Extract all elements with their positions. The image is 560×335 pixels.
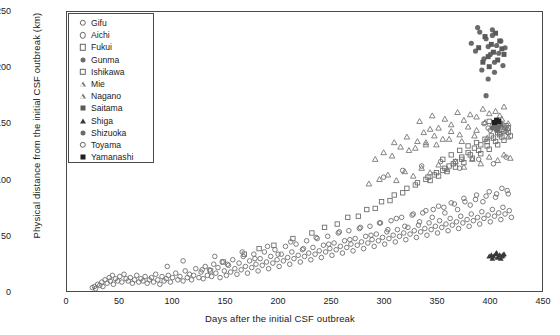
data-point: [342, 238, 347, 243]
data-point: [292, 256, 297, 261]
legend-item-label: Gifu: [91, 18, 107, 28]
data-point: [359, 240, 364, 245]
legend-item-gunma[interactable]: Gunma: [77, 54, 153, 66]
data-point: [417, 118, 423, 123]
data-point: [356, 214, 360, 218]
data-point: [276, 252, 281, 257]
data-point: [254, 262, 259, 267]
data-point: [262, 250, 267, 255]
data-point: [212, 254, 217, 259]
data-point: [492, 214, 497, 219]
data-point: [495, 58, 500, 63]
data-point: [442, 205, 447, 210]
data-point: [376, 238, 381, 243]
data-point: [355, 243, 360, 248]
data-point: [220, 260, 225, 265]
legend-item-yamanashi[interactable]: Yamanashi: [77, 151, 153, 163]
data-point: [201, 276, 206, 281]
legend-item-nagano[interactable]: Nagano: [77, 90, 153, 102]
data-point: [468, 203, 473, 208]
data-point: [314, 235, 319, 240]
data-point: [487, 119, 491, 123]
data-point: [145, 281, 150, 286]
data-point: [317, 249, 322, 254]
legend-item-shizuoka[interactable]: Shizuoka: [77, 127, 153, 139]
legend-item-gifu[interactable]: Gifu: [77, 17, 153, 29]
legend-item-shiga[interactable]: Shiga: [77, 115, 153, 127]
data-point: [277, 264, 282, 269]
data-point: [490, 207, 495, 212]
legend-item-label: Saitama: [91, 103, 123, 113]
data-point: [474, 140, 478, 144]
data-point: [370, 237, 375, 242]
data-point: [330, 253, 335, 258]
data-point: [496, 211, 501, 216]
data-point: [405, 186, 409, 190]
data-point: [473, 197, 478, 202]
data-point: [467, 224, 472, 229]
data-point: [235, 272, 240, 277]
data-point: [130, 281, 135, 286]
data-point: [488, 220, 493, 225]
legend-item-mie[interactable]: Mie: [77, 78, 153, 90]
data-point: [222, 269, 227, 274]
data-point: [347, 228, 352, 233]
data-point: [472, 133, 478, 138]
data-point: [328, 246, 333, 251]
data-point: [181, 259, 186, 264]
data-point: [474, 127, 480, 132]
data-point: [243, 264, 248, 269]
data-point: [348, 237, 353, 242]
x-axis-title: Days after the initial CSF outbreak: [0, 313, 560, 324]
data-point: [218, 275, 223, 280]
x-tick-label: 350: [414, 296, 460, 306]
data-point: [486, 111, 492, 116]
data-point: [363, 234, 368, 239]
data-point: [439, 225, 444, 230]
data-point: [475, 25, 480, 30]
legend-item-label: Shiga: [91, 116, 113, 126]
data-point: [168, 280, 173, 285]
data-point: [469, 212, 474, 217]
legend-item-label: Nagano: [91, 91, 121, 101]
data-point: [477, 30, 482, 35]
data-point: [496, 119, 501, 124]
data-point: [456, 226, 461, 231]
legend-item-aichi[interactable]: Aichi: [77, 29, 153, 41]
data-point: [271, 261, 276, 266]
data-point: [379, 200, 383, 204]
data-point: [372, 244, 377, 249]
legend-item-toyama[interactable]: Toyama: [77, 139, 153, 151]
data-point: [509, 215, 514, 220]
data-point: [397, 234, 402, 239]
x-tick-label: 250: [308, 296, 354, 306]
legend-item-saitama[interactable]: Saitama: [77, 102, 153, 114]
data-point: [230, 257, 235, 262]
data-point: [365, 207, 369, 211]
data-point: [170, 275, 175, 280]
x-tick-label: 300: [361, 296, 407, 306]
data-point: [500, 63, 505, 68]
data-point: [404, 237, 409, 242]
data-point: [334, 247, 339, 252]
data-point: [233, 266, 238, 271]
data-point: [313, 252, 318, 257]
data-point: [398, 144, 404, 149]
data-point: [457, 132, 463, 137]
data-point: [298, 260, 303, 265]
data-point: [448, 216, 453, 221]
data-point: [207, 268, 212, 273]
legend-item-fukui[interactable]: Fukui: [77, 41, 153, 53]
legend-item-ishikawa[interactable]: Ishikawa: [77, 66, 153, 78]
data-point: [411, 212, 416, 217]
data-point: [400, 191, 404, 195]
data-point: [381, 150, 387, 155]
data-point: [461, 117, 467, 122]
data-point: [401, 231, 406, 236]
data-point: [388, 198, 392, 202]
data-point: [474, 193, 479, 198]
data-point: [304, 238, 309, 243]
data-point: [465, 124, 471, 129]
data-point: [481, 199, 486, 204]
legend-item-label: Aichi: [91, 30, 110, 40]
